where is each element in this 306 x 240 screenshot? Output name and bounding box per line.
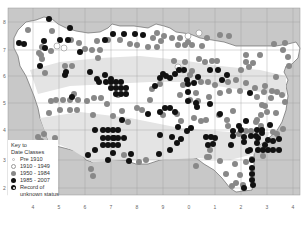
record-dot (37, 63, 43, 69)
record-dot (202, 59, 208, 65)
record-dot (225, 79, 231, 85)
record-dot (49, 28, 55, 34)
record-dot (167, 147, 173, 153)
record-dot (104, 101, 110, 107)
record-dot (41, 38, 47, 44)
map-legend: Key to Date Classes Pre 1910 1910 - 1949… (8, 140, 58, 198)
record-dot (276, 147, 282, 153)
record-dot (152, 83, 158, 89)
record-dot (140, 32, 146, 38)
record-dot (286, 63, 292, 69)
record-dot (115, 127, 121, 133)
record-dot (252, 85, 258, 91)
x-tick-label: 9 (162, 204, 165, 210)
x-tick-label: 3 (266, 204, 269, 210)
record-dot (238, 127, 244, 133)
record-dot (143, 157, 149, 163)
record-dot (110, 113, 116, 119)
record-dot (16, 40, 22, 46)
record-dot (158, 38, 164, 44)
y-tick-label: 2 (3, 185, 6, 191)
record-dot (161, 33, 167, 39)
record-dot (232, 161, 238, 167)
record-dot (217, 111, 223, 117)
record-dot (215, 67, 221, 73)
record-dot (219, 77, 225, 83)
y-tick-label: 7 (3, 47, 6, 53)
record-dot (249, 171, 255, 177)
record-dot (254, 140, 260, 146)
record-dot (214, 58, 220, 64)
record-dot (265, 137, 271, 143)
record-dot (243, 159, 249, 165)
record-dot (271, 41, 277, 47)
record-dot (177, 92, 183, 98)
legend-item-unknown-status: Record of (11, 184, 58, 191)
record-dot (207, 67, 213, 73)
record-dot (233, 180, 239, 186)
record-dot (74, 107, 80, 113)
x-tick-label: 8 (136, 204, 139, 210)
record-dot (270, 129, 276, 135)
record-dot (250, 182, 256, 188)
x-tick-label: 4 (292, 204, 295, 210)
record-dot (257, 52, 263, 58)
record-dot (96, 79, 102, 85)
record-dot (243, 80, 249, 86)
record-dot (136, 159, 142, 165)
record-dot (181, 67, 187, 73)
record-dot (91, 95, 97, 101)
record-dot (163, 73, 169, 79)
record-dot (63, 69, 69, 75)
record-dot (147, 97, 153, 103)
record-dot (60, 97, 66, 103)
record-dot (67, 107, 73, 113)
record-dot (249, 157, 255, 163)
record-dot (270, 147, 276, 153)
y-tick-label: 6 (3, 73, 6, 79)
record-dot (90, 173, 96, 179)
record-dot (53, 97, 59, 103)
record-dot (206, 94, 212, 100)
record-dot (191, 115, 197, 121)
record-dot (118, 79, 124, 85)
record-dot (228, 142, 234, 148)
record-dot (171, 58, 177, 64)
record-dot (65, 37, 71, 43)
record-dot (88, 166, 94, 172)
y-tick-label: 4 (3, 127, 6, 133)
record-dot (206, 154, 212, 160)
record-dot (238, 67, 244, 73)
record-dot (85, 152, 91, 158)
record-dot (125, 119, 131, 125)
record-dot (253, 133, 259, 139)
record-dot (36, 50, 42, 56)
record-dot (178, 118, 184, 124)
record-dot (285, 54, 291, 60)
record-dot (121, 31, 127, 37)
record-dot (264, 109, 270, 115)
record-dot (97, 47, 103, 53)
record-dot (94, 38, 100, 44)
record-dot (121, 152, 127, 158)
record-dot (205, 79, 211, 85)
record-dot (134, 42, 140, 48)
record-dot (89, 47, 95, 53)
record-dot (204, 35, 210, 41)
record-dot (254, 94, 260, 100)
record-dot (169, 134, 175, 140)
pre-1910-symbol-icon (12, 158, 15, 161)
record-dot (212, 82, 218, 88)
record-dot (102, 37, 108, 43)
record-dot (110, 150, 116, 156)
grey-circle-icon (11, 171, 16, 176)
record-dot (193, 163, 199, 169)
record-dot (199, 43, 205, 49)
record-dot (42, 45, 48, 51)
record-dot (282, 40, 288, 46)
record-dot (115, 142, 121, 148)
record-dot (177, 35, 183, 41)
record-dot (226, 88, 232, 94)
record-dot (157, 132, 163, 138)
record-dot (105, 157, 111, 163)
